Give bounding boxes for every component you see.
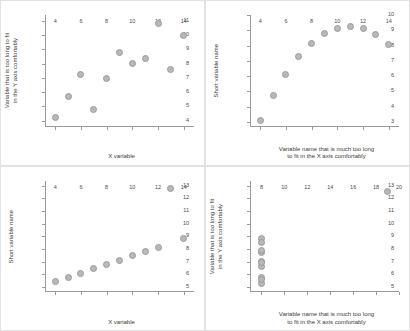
data-point	[258, 239, 265, 246]
data-point	[321, 30, 328, 37]
x-tick-label: 14	[327, 185, 333, 305]
y-tick-label: 4	[391, 104, 394, 110]
x-axis-label-bottom-left: X variable	[45, 319, 198, 327]
x-axis-line	[45, 126, 194, 127]
y-axis-label-bottom-right: Variable that is too long to fitin the Y…	[210, 181, 224, 293]
data-point	[90, 265, 97, 272]
y-tick	[42, 198, 45, 199]
y-tick	[42, 21, 45, 22]
data-point	[142, 248, 149, 255]
y-tick	[247, 122, 250, 123]
y-axis-line	[250, 15, 251, 127]
y-tick-label: 10	[388, 12, 394, 18]
y-tick-label: 10	[388, 221, 394, 227]
data-point	[52, 114, 59, 121]
y-tick	[247, 30, 250, 31]
x-axis-label-line-2: to fit in the X axis comfortably	[250, 153, 403, 161]
y-tick-label: 9	[391, 28, 394, 34]
x-axis-label-bottom-right: Variable name that is much too longto fi…	[250, 311, 403, 326]
y-tick-label: 11	[388, 208, 394, 214]
y-tick	[247, 46, 250, 47]
data-point	[360, 25, 367, 32]
y-axis-label-line-1: Short variable name	[213, 44, 221, 98]
x-tick-label: 20	[396, 185, 402, 305]
y-tick	[247, 287, 250, 288]
y-tick-label: 5	[391, 89, 394, 95]
x-axis-line	[250, 126, 399, 127]
y-tick	[42, 211, 45, 212]
data-point	[103, 261, 110, 268]
y-tick	[42, 64, 45, 65]
data-point	[167, 66, 174, 73]
x-tick-label: 12	[304, 185, 310, 305]
y-axis-line	[250, 181, 251, 293]
data-point	[77, 270, 84, 277]
y-tick-label: 13	[183, 183, 189, 189]
y-tick	[247, 274, 250, 275]
x-tick-label: 10	[281, 185, 287, 305]
data-point	[77, 71, 84, 78]
y-tick	[42, 121, 45, 122]
y-tick-label: 11	[183, 18, 189, 24]
y-axis-label-bottom-left: Short variable name	[5, 181, 19, 293]
y-tick-label: 11	[183, 208, 189, 214]
x-tick-label: 12	[155, 19, 161, 139]
y-tick	[42, 49, 45, 50]
y-axis-label-line-1: Variable that is too long to fit	[210, 199, 218, 274]
y-tick-label: 12	[388, 195, 394, 201]
y-tick	[247, 224, 250, 225]
y-tick	[42, 224, 45, 225]
data-point	[155, 20, 162, 27]
data-point	[347, 23, 354, 30]
data-point	[180, 235, 187, 242]
x-axis-label-top-left: X variable	[45, 153, 198, 161]
x-tick-label: 4	[54, 185, 57, 305]
plot-area-top-left: 4681012144567891011	[45, 15, 194, 127]
x-axis-label-line-1: Variable name that is much too long	[250, 311, 403, 319]
y-tick-label: 8	[186, 246, 189, 252]
data-point	[65, 93, 72, 100]
y-axis-label-line-2: in the Y axis comfortably	[12, 33, 20, 108]
x-axis-label-line-1: X variable	[45, 153, 198, 161]
x-tick-label: 10	[334, 19, 340, 139]
plot-area-bottom-right: 81012141618205678910111213	[250, 181, 399, 293]
data-point	[308, 40, 315, 47]
data-point	[334, 25, 341, 32]
x-axis-label-line-1: Variable name that is much too long	[250, 146, 403, 154]
y-tick	[42, 92, 45, 93]
y-tick-label: 5	[186, 284, 189, 290]
y-tick	[42, 35, 45, 36]
y-tick	[247, 61, 250, 62]
x-tick-label: 16	[350, 185, 356, 305]
y-tick-label: 8	[186, 61, 189, 67]
data-point	[142, 55, 149, 62]
data-point	[103, 75, 110, 82]
y-axis-label-line-1: Short variable name	[8, 209, 16, 263]
y-tick	[247, 211, 250, 212]
y-axis-line	[45, 181, 46, 293]
y-axis-label-top-right: Short variable name	[210, 15, 224, 127]
y-tick-label: 8	[391, 246, 394, 252]
y-axis-line	[45, 15, 46, 127]
data-point	[270, 92, 277, 99]
panel-top-left: Variable that is too long to fitin the Y…	[0, 0, 205, 166]
y-tick	[42, 236, 45, 237]
y-tick	[42, 274, 45, 275]
x-axis-label-line-1: X variable	[45, 319, 198, 327]
scatter-plot-grid: Variable that is too long to fitin the Y…	[0, 0, 410, 331]
data-point	[385, 41, 392, 48]
data-point	[65, 274, 72, 281]
y-tick	[247, 249, 250, 250]
y-tick	[247, 262, 250, 263]
y-axis-label-text: Short variable name	[213, 44, 221, 98]
y-tick-label: 4	[186, 118, 189, 124]
y-tick	[42, 186, 45, 187]
y-tick-label: 6	[186, 272, 189, 278]
data-point	[258, 247, 265, 254]
y-tick	[247, 236, 250, 237]
y-tick-label: 6	[186, 89, 189, 95]
y-tick	[247, 198, 250, 199]
y-tick	[247, 15, 250, 16]
y-tick	[247, 186, 250, 187]
x-tick-label: 6	[79, 185, 82, 305]
